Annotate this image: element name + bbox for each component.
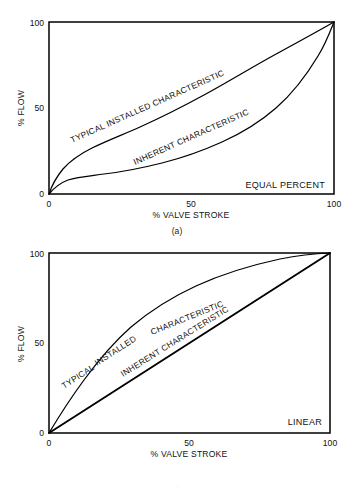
curve-inherent-b xyxy=(49,253,330,433)
valve-characteristic-figure: 100 50 0 0 50 100 % VALVE STROKE % FLOW … xyxy=(0,0,354,488)
x-tick-0-b: 0 xyxy=(47,438,52,448)
mode-label-a: EQUAL PERCENT xyxy=(245,180,325,190)
chart-panel-a: 100 50 0 0 50 100 % VALVE STROKE % FLOW … xyxy=(0,0,354,244)
x-tick-100-b: 100 xyxy=(323,438,338,448)
page-bleed-text: . xyxy=(0,480,354,488)
x-tick-50-a: 50 xyxy=(186,199,196,209)
y-tick-50-b: 50 xyxy=(34,338,44,348)
chart-panel-b: 100 50 0 0 50 100 % VALVE STROKE % FLOW … xyxy=(0,244,354,488)
label-installed-b-part1: TYPICAL xyxy=(60,362,97,391)
curve-installed-a xyxy=(49,22,334,194)
x-tick-0-a: 0 xyxy=(47,199,52,209)
x-axis-title-a: % VALVE STROKE xyxy=(153,210,230,220)
x-axis-title-b: % VALVE STROKE xyxy=(151,449,228,459)
panel-caption-a: (a) xyxy=(0,226,354,236)
plot-b: 100 50 0 0 50 100 % VALVE STROKE % FLOW … xyxy=(0,244,354,488)
mode-label-b: LINEAR xyxy=(288,417,323,427)
y-tick-0-b: 0 xyxy=(39,428,44,438)
plot-frame-a xyxy=(49,22,334,194)
y-tick-0-a: 0 xyxy=(39,189,44,199)
curve-inherent-a xyxy=(49,22,334,194)
y-axis-title-b: % FLOW xyxy=(16,325,26,362)
x-tick-100-a: 100 xyxy=(327,199,342,209)
plot-a: 100 50 0 0 50 100 % VALVE STROKE % FLOW … xyxy=(0,0,354,244)
y-tick-100-b: 100 xyxy=(30,249,45,259)
y-tick-50-a: 50 xyxy=(34,103,44,113)
y-axis-title-a: % FLOW xyxy=(16,89,26,126)
x-tick-50-b: 50 xyxy=(184,438,194,448)
y-tick-100-a: 100 xyxy=(30,18,45,28)
